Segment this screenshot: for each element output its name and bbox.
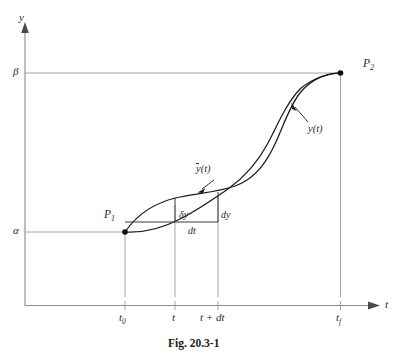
P1-label-text: P	[104, 208, 111, 220]
P1-label-subscript: 1	[111, 214, 115, 223]
P2-label: P2	[363, 58, 374, 72]
x-axis-label: t	[385, 299, 388, 310]
y-of-t-label-text: y(t)	[308, 123, 323, 134]
y-bar-leader-arrowhead	[198, 188, 206, 193]
y-bar-of-t-label: y(t)	[196, 163, 211, 175]
x-axis-arrowhead	[368, 302, 380, 310]
delta-y-label: δy	[179, 210, 188, 220]
leaders-group	[198, 103, 309, 193]
tick-label-tf-subscript: f	[339, 317, 341, 326]
y-bar-leader-line	[202, 180, 214, 189]
dt-label: dt	[188, 226, 196, 236]
y-bar-of-t-label-prefix: y	[196, 163, 201, 175]
beta-level-label: β	[13, 66, 18, 77]
P1-label: P1	[104, 209, 115, 223]
tick-label-t-text: t	[172, 311, 175, 323]
dy-label: dy	[221, 210, 230, 220]
endpoint-markers-group	[122, 70, 343, 235]
P2-label-subscript: 2	[370, 63, 374, 72]
tick-label-t0-subscript: 0	[122, 317, 126, 326]
tick-label-t: t	[172, 312, 175, 323]
y-axis-arrowhead	[21, 22, 29, 33]
y-bar-curve	[125, 73, 340, 232]
trajectories-group	[125, 73, 340, 232]
P2-dot	[338, 70, 344, 76]
figure-container: y t β α t0 t t + dt tf P1 P2 y(t) y(t) δ…	[0, 0, 408, 361]
tick-label-t-plus-dt-text: t + dt	[200, 311, 225, 323]
y-bar-of-t-label-text: (t)	[201, 163, 211, 174]
increment-construction-group	[125, 192, 218, 222]
y-axis-label: y	[19, 12, 24, 23]
y-of-t-leader-line	[295, 107, 308, 122]
y-of-t-label: y(t)	[308, 124, 323, 135]
y-of-t-curve	[125, 73, 340, 232]
tick-label-tf: tf	[336, 312, 341, 326]
P2-label-text: P	[363, 57, 370, 69]
P1-dot	[122, 229, 128, 235]
tick-label-t0: t0	[119, 312, 126, 326]
figure-caption: Fig. 20.3-1	[168, 337, 219, 349]
alpha-level-label: α	[13, 225, 19, 236]
figure-graphic	[0, 0, 408, 361]
tick-label-t-plus-dt: t + dt	[200, 312, 225, 323]
